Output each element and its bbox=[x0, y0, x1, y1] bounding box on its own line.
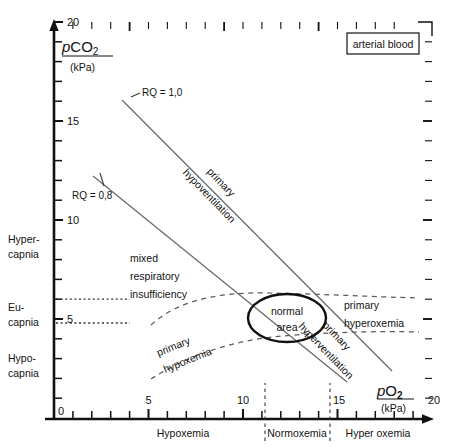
x-axis-ticks bbox=[73, 409, 413, 419]
rq-0-8-label: RQ = 0,8 bbox=[72, 190, 113, 201]
rq-1-0-leader bbox=[131, 93, 140, 97]
acid-base-diagram: arterial blood 20 15 10 5 0 5 10 15 20 p… bbox=[0, 0, 457, 447]
y-axis-title-co: CO bbox=[70, 38, 93, 55]
prim-hyperox-line2: hyperoxemia bbox=[344, 317, 404, 329]
y-axis-title-p: p bbox=[61, 38, 70, 55]
eucapnia-line2: capnia bbox=[8, 316, 39, 328]
normal-line2: area bbox=[276, 321, 297, 333]
prim-hyperox-line1: primary bbox=[344, 299, 380, 311]
x-axis-title-o: O bbox=[385, 382, 397, 399]
y-axis-title-sub: 2 bbox=[93, 46, 99, 57]
x-axis-arrow bbox=[422, 414, 434, 423]
mixed-line3: insufficiency bbox=[130, 288, 188, 300]
chart-canvas: arterial blood 20 15 10 5 0 5 10 15 20 p… bbox=[0, 0, 457, 447]
plot-frame bbox=[418, 22, 432, 36]
top-axis-ticks bbox=[73, 22, 394, 31]
y-axis-arrow bbox=[49, 19, 58, 31]
y-zone-hypercapnia: Hyper- capnia bbox=[8, 233, 40, 260]
y-zone-hypocapnia: Hypo- capnia bbox=[8, 352, 39, 379]
y-tick-10: 10 bbox=[67, 214, 79, 226]
region-primary-hyperoxemia: primary hyperoxemia bbox=[344, 299, 404, 329]
x-zone-hyperoxemia: Hyper oxemia bbox=[346, 427, 411, 439]
x-tick-10: 10 bbox=[237, 394, 249, 406]
region-primary-hypoxemia: primary hypoxemia bbox=[155, 328, 213, 375]
normal-line1: normal bbox=[271, 305, 303, 317]
hypercapnia-line1: Hyper- bbox=[8, 233, 40, 245]
y-axis-title: pCO2 (kPa) bbox=[61, 38, 113, 73]
y-tick-5: 5 bbox=[67, 313, 73, 325]
y-axis-ticks bbox=[54, 22, 63, 398]
x-zone-normoxemia: Normoxemia bbox=[267, 427, 327, 439]
x-zone-hypoxemia: Hypoxemia bbox=[157, 427, 210, 439]
x-axis-title-p: p bbox=[376, 382, 385, 399]
hypercapnia-line2: capnia bbox=[8, 248, 39, 260]
eucapnia-line1: Eu- bbox=[8, 301, 25, 313]
y-tick-15: 15 bbox=[67, 115, 79, 127]
y-tick-0: 0 bbox=[58, 405, 64, 417]
y-axis-unit: (kPa) bbox=[70, 61, 95, 73]
x-axis-title: pO2 (kPa) bbox=[376, 382, 414, 414]
y-tick-20: 20 bbox=[67, 16, 79, 28]
x-axis-unit: (kPa) bbox=[381, 402, 406, 414]
arterial-blood-label: arterial blood bbox=[353, 38, 414, 50]
svg-text:pO2: pO2 bbox=[376, 382, 403, 401]
top-right-corner bbox=[418, 22, 432, 36]
rq-1-0-label: RQ = 1,0 bbox=[142, 87, 183, 98]
svg-text:pCO2: pCO2 bbox=[61, 38, 99, 57]
region-primary-hypoventilation: primary hypoventilation bbox=[181, 154, 251, 225]
region-mixed-respiratory-insufficiency: mixed respiratory insufficiency bbox=[130, 252, 188, 300]
rq-leader-ticks bbox=[100, 93, 140, 186]
x-tick-15: 15 bbox=[333, 394, 345, 406]
x-tick-20: 20 bbox=[428, 394, 440, 406]
mixed-line2: respiratory bbox=[130, 270, 180, 282]
hypocapnia-line1: Hypo- bbox=[8, 352, 37, 364]
y-zone-eucapnia: Eu- capnia bbox=[8, 301, 39, 328]
right-axis-ticks bbox=[423, 42, 432, 398]
hypocapnia-line2: capnia bbox=[8, 367, 39, 379]
rq-1-0-line bbox=[122, 100, 392, 371]
x-tick-5: 5 bbox=[145, 394, 151, 406]
mixed-line1: mixed bbox=[130, 252, 158, 264]
